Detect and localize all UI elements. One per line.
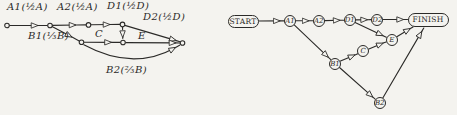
activity-label-a2: A2(½A) (57, 1, 98, 13)
node-b1: B1 (329, 58, 341, 70)
activity-label-b1: B1(⅓B) (28, 30, 69, 42)
activity-label-d2: D2(½D) (143, 11, 185, 23)
node-d2: D2 (371, 14, 383, 26)
edge-a1-to-b1 (294, 25, 330, 60)
event-node-finish (180, 41, 185, 46)
activity-label-e: E (138, 30, 146, 42)
edge-b1-to-b2 (340, 68, 376, 100)
edge-d1-to-e (355, 23, 386, 38)
edge-b1-to-c (341, 54, 358, 61)
event-node-after-a2 (86, 23, 91, 28)
node-e: E (386, 34, 398, 46)
node-b2: B2 (374, 97, 386, 109)
edge-e-to-finish (397, 27, 413, 37)
edge-activity-a2 (53, 25, 87, 26)
event-node-after-b1 (79, 40, 84, 45)
event-node-after-a1 (48, 23, 53, 28)
activity-label-a1: A1(½A) (7, 1, 48, 13)
node-a2: A2 (313, 15, 325, 27)
node-d1: D1 (344, 14, 356, 26)
event-node-after-c (121, 40, 126, 45)
node-finish: FINISH (408, 13, 449, 27)
event-node-start (5, 23, 10, 28)
edge-activity-b2-arc (84, 45, 180, 59)
edge-activity-d2 (125, 25, 180, 41)
node-start: START (228, 15, 259, 28)
activity-label-b2: B2(⅔B) (106, 64, 147, 76)
right-network-edges (258, 20, 424, 100)
figure-canvas: A1(½A) A2(½A) D1(½D) D2(½D) B1(⅓B) C E B… (0, 0, 457, 115)
activity-label-c: C (95, 28, 103, 40)
node-a1: A1 (284, 15, 296, 27)
edge-c-to-e (369, 42, 386, 49)
event-node-after-d1 (120, 22, 125, 27)
